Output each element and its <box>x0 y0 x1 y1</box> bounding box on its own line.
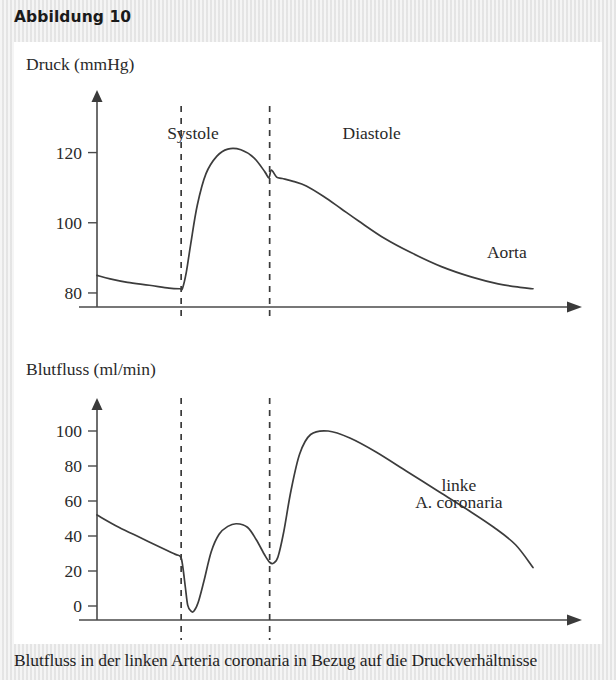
pressure-x-axis-arrow <box>567 302 582 313</box>
pressure-ytick-label: 80 <box>65 283 83 303</box>
flow-ytick-label: 80 <box>65 456 83 476</box>
flow-annotation: A. coronaria <box>415 492 503 512</box>
flow-axis-title: Blutfluss (ml/min) <box>26 359 156 379</box>
figure-panel: Druck (mmHg)80100120SystoleDiastoleAorta… <box>14 42 602 644</box>
figure-page: Abbildung 10 Druck (mmHg)80100120Systole… <box>0 0 616 680</box>
flow-ytick-label: 20 <box>65 561 83 581</box>
pressure-y-axis-arrow <box>92 90 103 102</box>
aortic-pressure-chart: Druck (mmHg)80100120SystoleDiastoleAorta… <box>14 42 602 644</box>
flow-ytick-label: 0 <box>73 596 82 616</box>
pressure-annotation: Aorta <box>487 242 527 262</box>
figure-title: Abbildung 10 <box>14 8 131 26</box>
pressure-ytick-label: 120 <box>56 143 83 163</box>
pressure-annotation: Systole <box>167 123 219 143</box>
pressure-axis-title: Druck (mmHg) <box>26 54 135 74</box>
flow-y-axis-arrow <box>92 398 103 410</box>
flow-curve <box>97 431 533 612</box>
flow-ytick-label: 100 <box>56 421 83 441</box>
flow-ytick-label: 60 <box>65 491 83 511</box>
flow-x-axis-arrow <box>567 615 582 626</box>
flow-ytick-label: 40 <box>65 526 83 546</box>
pressure-curve <box>97 148 533 289</box>
pressure-ytick-label: 100 <box>56 213 83 233</box>
figure-caption: Blutfluss in der linken Arteria coronari… <box>14 650 606 671</box>
pressure-annotation: Diastole <box>343 123 402 143</box>
